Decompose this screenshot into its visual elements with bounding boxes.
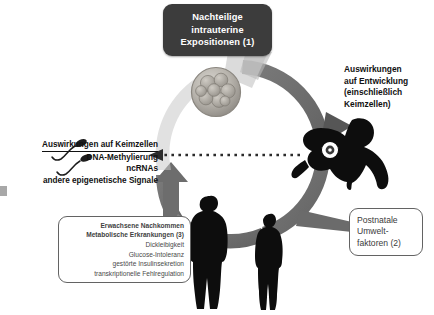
label-germcells-line-2: ncRNAs (6, 163, 158, 174)
label-development-line-4: Keimzellen) (344, 99, 434, 111)
callout-offspring-line-4: Glucose-Intoleranz (129, 250, 184, 260)
dotted-leftward-arrow (149, 149, 300, 161)
callout-postnatal-line-3: faktoren (2) (357, 238, 401, 250)
callout-intrauterine-line-1: Nachteilige (192, 11, 243, 23)
label-germcells-line-3: andere epigenetische Signale (6, 175, 158, 186)
label-development-line-1: Auswirkungen (344, 64, 434, 76)
callout-offspring-line-2: Metabolische Erkrankungen (3) (86, 230, 184, 240)
transgenerational-programming-diagram: Nachteilige intrauterine Expositionen (1… (0, 0, 434, 315)
label-development-line-2: auf Entwicklung (344, 76, 434, 88)
label-germcells-heading: Auswirkungen auf Keimzellen (42, 139, 158, 152)
callout-offspring-line-6: transkriptionelle Fehlregulation (94, 269, 184, 279)
label-development-line-3: (einschließlich (344, 87, 434, 99)
label-germcells-line-1: DNA-Methylierung (6, 152, 158, 163)
morula-embryo (192, 68, 241, 117)
label-development-effects: Auswirkungen auf Entwicklung (einschließ… (344, 64, 434, 111)
callout-intrauterine-line-2: intrauterine (191, 24, 243, 36)
callout-offspring-line-1: Erwachsene Nachkommen (100, 221, 184, 231)
obese-adult-silhouette (188, 196, 228, 309)
callout-postnatal-line-1: Postnatale (357, 215, 398, 227)
callout-intrauterine-line-3: Expositionen (1) (181, 36, 255, 48)
callout-postnatal-line-2: Umwelt- (357, 226, 389, 238)
callout-postnatal-factors: Postnatale Umwelt- faktoren (2) (349, 208, 423, 256)
callout-offspring-line-3: Dickleibigkeit (146, 240, 184, 250)
label-germ-cell-effects: Auswirkungen auf Keimzellen DNA-Methylie… (6, 139, 158, 186)
callout-offspring-line-5: gestörte Insulinsekretion (113, 259, 184, 269)
callout-tail-postnatal (296, 210, 352, 232)
callout-adult-offspring: Erwachsene Nachkommen Metabolische Erkra… (58, 216, 191, 283)
page-edge-artifact (0, 186, 7, 196)
callout-intrauterine-exposures: Nachteilige intrauterine Expositionen (1… (163, 4, 272, 56)
